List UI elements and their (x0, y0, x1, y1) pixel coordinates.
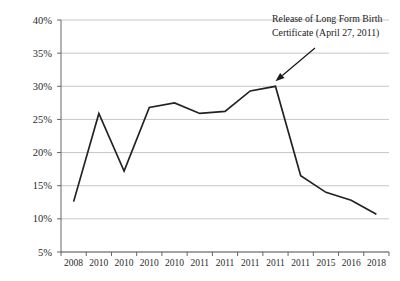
y-axis-tick-label: 40% (33, 15, 53, 26)
x-axis-tick-label: 2011 (190, 258, 209, 268)
x-axis-tickmarks (61, 252, 389, 256)
y-axis-tickmarks (57, 20, 61, 252)
x-axis-tick-label: 2008 (64, 258, 83, 268)
y-axis-tick-labels: 40%35%30%25%20%15%10%5% (33, 15, 53, 258)
annotation-callout: Release of Long Form Birth Certificate (… (272, 13, 383, 81)
x-axis-tick-label: 2011 (266, 258, 285, 268)
y-axis-tick-label: 35% (33, 48, 53, 59)
data-series-line (74, 86, 377, 214)
x-axis-tick-label: 2011 (216, 258, 235, 268)
y-axis-tick-label: 25% (33, 114, 53, 125)
chart-container: 40%35%30%25%20%15%10%5% 2008201020102010… (0, 0, 400, 281)
annotation-text-line-2: Certificate (April 27, 2011) (272, 27, 379, 39)
x-axis-tick-label: 2018 (367, 258, 386, 268)
x-axis-tick-label: 2010 (140, 258, 159, 268)
x-axis-tick-label: 2010 (165, 258, 184, 268)
y-axis-tick-label: 20% (33, 147, 53, 158)
annotation-arrow-line (282, 48, 315, 75)
annotation-text-line-1: Release of Long Form Birth (272, 13, 383, 24)
x-axis-tick-label: 2010 (89, 258, 108, 268)
x-axis-tick-label: 2011 (291, 258, 310, 268)
x-axis-tick-label: 2010 (115, 258, 134, 268)
y-axis-tick-label: 10% (33, 213, 53, 224)
x-axis-tick-label: 2011 (241, 258, 260, 268)
y-axis-tick-label: 30% (33, 81, 53, 92)
x-axis-tick-label: 2015 (316, 258, 335, 268)
x-axis-tick-label: 2016 (342, 258, 361, 268)
y-axis-tick-label: 5% (38, 247, 52, 258)
line-chart: 40%35%30%25%20%15%10%5% 2008201020102010… (0, 0, 400, 281)
x-axis-tick-labels: 2008201020102010201020112011201120112011… (64, 258, 386, 268)
y-axis-tick-label: 15% (33, 180, 53, 191)
gridlines (61, 20, 389, 252)
